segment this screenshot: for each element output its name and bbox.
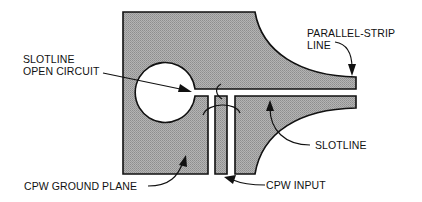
cpw-slotline-transition-diagram: SLOTLINE OPEN CIRCUIT PARALLEL-STRIP LIN… <box>0 0 422 202</box>
lower-ground-conductor <box>235 96 356 174</box>
label-cpw-input: CPW INPUT <box>266 179 326 191</box>
arrowhead-parallel-strip <box>348 64 356 76</box>
label-slotline-open-circuit-1: SLOTLINE <box>23 53 75 65</box>
leader-slotline-open-circuit <box>103 73 185 90</box>
cpw-center-conductor <box>215 96 227 174</box>
leader-cpw-input <box>233 180 265 185</box>
arrowhead-slotline-open-circuit <box>178 84 192 92</box>
label-parallel-strip-2: LINE <box>307 39 331 51</box>
label-parallel-strip-1: PARALLEL-STRIP <box>307 27 395 39</box>
arrowhead-cpw-input <box>224 175 236 184</box>
label-cpw-ground-plane: CPW GROUND PLANE <box>24 180 137 192</box>
label-slotline: SLOTLINE <box>315 139 367 151</box>
label-slotline-open-circuit-2: OPEN CIRCUIT <box>23 65 100 77</box>
